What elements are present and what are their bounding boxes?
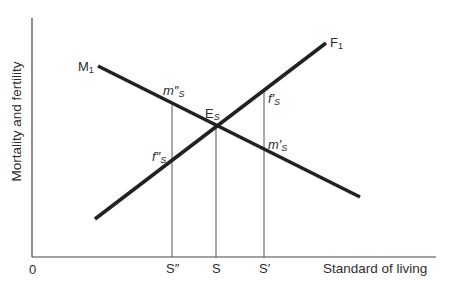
x-tick-s-prime: S′ — [259, 262, 270, 275]
label-f-prime: f′S — [268, 92, 280, 107]
x-axis-label: Standard of living — [323, 262, 427, 276]
label-m-double-prime: m″S — [163, 84, 184, 99]
x-tick-s-double-prime: S″ — [166, 262, 179, 275]
curve-label-m1: M1 — [78, 60, 94, 75]
y-axis-label: Mortality and fertility — [9, 62, 24, 182]
origin-label: 0 — [29, 263, 36, 276]
diagram-canvas — [0, 0, 449, 287]
equilibrium-label: ES — [205, 107, 220, 122]
label-m-prime: m′S — [268, 138, 287, 153]
mortality-curve-m1 — [98, 66, 360, 197]
curve-label-f1: F1 — [330, 36, 343, 51]
fertility-curve-f1 — [95, 43, 326, 219]
label-f-double-prime: f″S — [152, 150, 166, 165]
x-tick-s: S — [212, 262, 221, 275]
